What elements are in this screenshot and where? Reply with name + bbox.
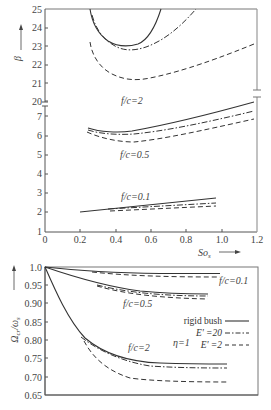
arrow-right-icon <box>235 250 241 254</box>
ytick-5: 5 <box>37 149 42 160</box>
ytick-20: 20 <box>32 96 42 107</box>
curve-fc2-e2 <box>90 42 254 80</box>
axis-break-left <box>42 102 48 106</box>
curve-fc01-e2 <box>92 272 220 277</box>
ytick-24: 24 <box>32 22 42 33</box>
ytick-0.75: 0.75 <box>25 353 43 364</box>
curve-fc2-rigid <box>90 9 161 46</box>
top-curves-fc05 <box>87 102 254 142</box>
top-x-tick-labels: 0 0.2 0.4 0.6 0.8 1.0 1.2 <box>43 234 264 245</box>
bottom-frame <box>45 267 258 395</box>
ytick-0.85: 0.85 <box>25 317 43 328</box>
bottom-curves-fc05 <box>45 267 208 299</box>
ytick-25: 25 <box>32 4 42 15</box>
xtick-0.6: 0.6 <box>145 234 158 245</box>
curve-fc05-e2 <box>87 119 254 142</box>
ytick-4: 4 <box>37 168 42 179</box>
ytick-1: 1 <box>37 226 42 237</box>
xtick-1.2: 1.2 <box>251 234 264 245</box>
ytick-3: 3 <box>37 187 42 198</box>
annotation-fc01: f/c=0.1 <box>219 275 248 286</box>
ytick-0.65: 0.65 <box>25 390 43 401</box>
ytick-6: 6 <box>37 130 42 141</box>
bottom-chart: 1.0 0.95 0.90 0.85 0.80 0.75 0.70 0.65 Ω… <box>9 262 258 401</box>
arrow-up-icon <box>12 265 16 271</box>
arrow-up-icon <box>19 24 23 30</box>
top-curves-fc2 <box>90 9 254 80</box>
annotation-eta: η=1 <box>173 337 190 348</box>
annotation-fc05: f/c=0.5 <box>120 149 149 160</box>
xtick-1.0: 1.0 <box>216 234 229 245</box>
curve-fc05-rigid <box>45 267 208 294</box>
top-chart: 25 24 23 22 21 20 7 6 5 4 3 2 1 0 0.2 0.… <box>12 4 263 260</box>
top-x-label: Sos <box>198 247 241 260</box>
top-y-tick-labels: 25 24 23 22 21 20 7 6 5 4 3 2 1 <box>32 4 42 237</box>
ytick-21: 21 <box>32 78 42 89</box>
xtick-0.4: 0.4 <box>110 234 123 245</box>
figure: 25 24 23 22 21 20 7 6 5 4 3 2 1 0 0.2 0.… <box>0 0 271 410</box>
xtick-0: 0 <box>43 234 48 245</box>
annotation-fc01: f/c=0.1 <box>121 191 150 202</box>
legend: rigid bush E' =20 E' =2 <box>184 316 249 350</box>
top-y-label: β <box>12 24 23 62</box>
ytick-0.80: 0.80 <box>25 335 43 346</box>
y-label-omega-ratio: Ωcr/ωs <box>9 317 22 343</box>
xtick-0.2: 0.2 <box>74 234 87 245</box>
axis-break-right <box>253 90 261 97</box>
legend-e2-label: E' =2 <box>200 340 223 350</box>
xtick-0.8: 0.8 <box>180 234 193 245</box>
legend-e20-label: E' =20 <box>195 328 222 338</box>
ytick-1.0: 1.0 <box>30 262 43 273</box>
annotation-fc05: f/c=0.5 <box>123 298 152 309</box>
ytick-0.70: 0.70 <box>25 372 43 383</box>
curve-fc01-rigid <box>45 267 220 274</box>
ytick-0.95: 0.95 <box>25 280 43 291</box>
x-label-so: Sos <box>198 247 211 260</box>
legend-rigid-bush-label: rigid bush <box>184 316 223 326</box>
annotation-fc2: f/c=2 <box>128 342 150 353</box>
ytick-7: 7 <box>37 111 42 122</box>
y-label-beta: β <box>12 56 23 62</box>
ytick-23: 23 <box>32 41 42 52</box>
curve-fc2-e20 <box>92 9 196 50</box>
ytick-0.90: 0.90 <box>25 298 43 309</box>
bottom-y-label: Ωcr/ωs <box>9 265 22 343</box>
bottom-y-tick-labels: 1.0 0.95 0.90 0.85 0.80 0.75 0.70 0.65 <box>25 262 43 401</box>
annotation-fc2: f/c=2 <box>121 95 143 106</box>
ytick-2: 2 <box>37 206 42 217</box>
ytick-22: 22 <box>32 59 42 70</box>
